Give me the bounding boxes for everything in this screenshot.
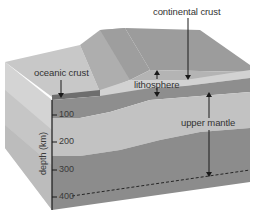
continental-crust-label: continental crust [153, 7, 220, 17]
depth-tick-400: 400 [59, 192, 74, 201]
depth-tick-300: 300 [59, 165, 74, 174]
depth-tick-200: 200 [59, 137, 74, 146]
oceanic-crust-label: oceanic crust [34, 68, 89, 78]
lithosphere-label: lithosphere [134, 80, 179, 90]
depth-tick-100: 100 [59, 110, 74, 119]
block-diagram-graphic [0, 0, 255, 215]
earth-layers-diagram: continental crust oceanic crust lithosph… [0, 0, 255, 215]
upper-mantle-label: upper mantle [181, 118, 235, 128]
depth-axis-title: depth (km) [39, 132, 48, 175]
